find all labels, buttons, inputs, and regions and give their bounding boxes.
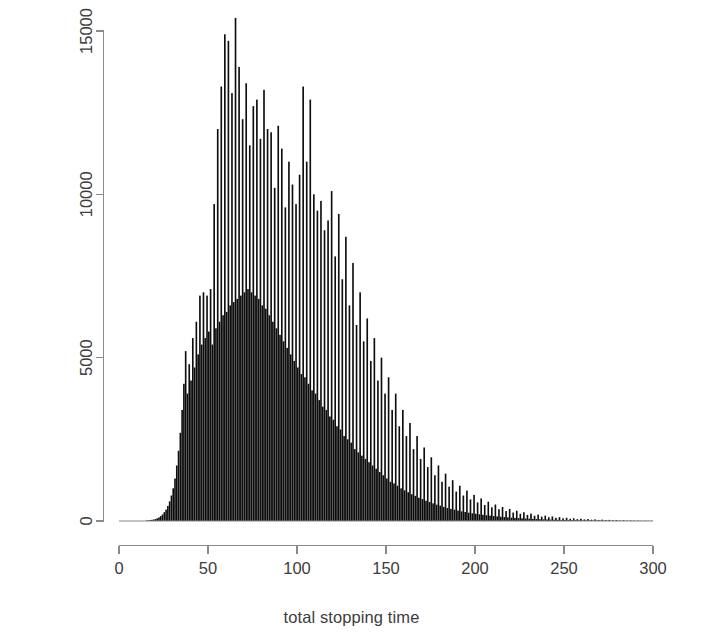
histogram-bar <box>473 495 475 521</box>
histogram-bar <box>183 384 185 521</box>
histogram-bar <box>427 467 429 521</box>
histogram-bar <box>454 510 456 521</box>
histogram-plot: 050001000015000 050100150200250300 <box>0 0 703 641</box>
histogram-bar <box>295 204 297 521</box>
histogram-bar <box>172 488 174 521</box>
histogram-bar <box>236 299 238 521</box>
histogram-bars <box>146 18 653 521</box>
histogram-bar <box>190 381 192 521</box>
histogram-bar <box>498 509 500 521</box>
histogram-bar <box>201 345 203 521</box>
histogram-bar <box>256 100 258 521</box>
histogram-bar <box>541 517 543 521</box>
histogram-bar <box>509 509 511 521</box>
histogram-bar <box>418 498 420 521</box>
histogram-bar <box>443 507 445 521</box>
histogram-bar <box>247 289 249 521</box>
y-axis-tick-label: 5000 <box>77 339 95 376</box>
histogram-bar <box>516 511 518 521</box>
histogram-bar <box>363 341 365 521</box>
histogram-bar <box>434 475 436 521</box>
histogram-bar <box>468 513 470 521</box>
histogram-bar <box>306 162 308 521</box>
histogram-bar <box>445 474 447 521</box>
histogram-bar <box>436 505 438 521</box>
histogram-bar <box>431 457 433 521</box>
histogram-bar <box>342 279 344 521</box>
histogram-bar <box>534 516 536 521</box>
histogram-bar <box>235 18 237 521</box>
histogram-bar <box>452 480 454 521</box>
histogram-bar <box>464 512 466 521</box>
histogram-bar <box>203 292 205 521</box>
histogram-bar <box>171 496 173 521</box>
histogram-bar <box>279 335 281 521</box>
x-axis-tick-label: 100 <box>283 559 311 577</box>
histogram-bar <box>487 502 489 521</box>
histogram-bar <box>356 325 358 521</box>
histogram-bar <box>333 420 335 521</box>
histogram-bar <box>238 67 240 521</box>
histogram-bar <box>374 338 376 521</box>
histogram-bar <box>180 433 182 521</box>
histogram-bar <box>304 377 306 521</box>
histogram-bar <box>354 449 356 521</box>
histogram-bar <box>382 475 384 521</box>
histogram-bar <box>414 496 416 521</box>
histogram-bar <box>290 354 292 521</box>
histogram-bar <box>228 41 230 521</box>
histogram-bar <box>420 459 422 521</box>
histogram-bar <box>407 492 409 521</box>
y-axis-tick-labels: 050001000015000 <box>77 8 95 526</box>
histogram-bar <box>402 410 404 521</box>
histogram-bar <box>229 305 231 521</box>
histogram-bar <box>288 162 290 521</box>
histogram-bar <box>379 472 381 521</box>
histogram-bar <box>197 354 199 521</box>
x-axis-tick-label: 150 <box>372 559 400 577</box>
histogram-bar <box>213 204 215 521</box>
histogram-bar <box>520 514 522 521</box>
histogram-bar <box>219 322 221 521</box>
histogram-bar <box>276 328 278 521</box>
histogram-bar <box>477 502 479 521</box>
histogram-bar <box>349 305 351 521</box>
histogram-bar <box>500 517 502 521</box>
histogram-bar <box>496 516 498 521</box>
histogram-bar <box>448 487 450 521</box>
histogram-bar <box>365 459 367 521</box>
chart-figure: Frequency total stopping time 0500010000… <box>0 0 703 641</box>
histogram-bar <box>199 296 201 521</box>
histogram-bar <box>409 423 411 521</box>
histogram-bar <box>194 367 196 521</box>
histogram-bar <box>217 129 219 521</box>
histogram-bar <box>324 230 326 521</box>
histogram-bar <box>176 465 178 521</box>
histogram-bar <box>386 479 388 521</box>
histogram-bar <box>327 220 329 521</box>
histogram-bar <box>480 498 482 521</box>
histogram-bar <box>527 515 529 521</box>
x-axis-tick-label: 0 <box>114 559 123 577</box>
histogram-bar <box>274 188 276 521</box>
histogram-bar <box>165 510 167 521</box>
histogram-bar <box>358 452 360 521</box>
histogram-bar <box>293 361 295 521</box>
histogram-bar <box>309 100 311 521</box>
histogram-bar <box>265 309 267 521</box>
histogram-bar <box>269 315 271 521</box>
histogram-bar <box>422 499 424 521</box>
histogram-bar <box>404 490 406 521</box>
histogram-bar <box>210 289 212 521</box>
histogram-bar <box>482 515 484 521</box>
histogram-bar <box>270 132 272 521</box>
histogram-bar <box>320 201 322 521</box>
histogram-bar <box>185 351 187 521</box>
histogram-bar <box>463 496 465 521</box>
histogram-bar <box>263 90 265 521</box>
histogram-bar <box>441 482 443 521</box>
histogram-bar <box>455 492 457 521</box>
histogram-bar <box>450 509 452 521</box>
histogram-bar <box>502 507 504 521</box>
histogram-bar <box>375 469 377 521</box>
